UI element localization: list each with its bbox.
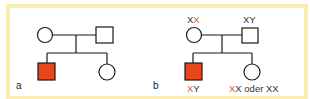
- panel-label-a: a: [16, 80, 22, 91]
- father-symbol-a: [96, 27, 113, 43]
- pedigree-a: [38, 27, 116, 80]
- alt-genotype: XX: [266, 83, 279, 94]
- affected-son-symbol-b: [185, 63, 202, 80]
- genotype-mother: XX: [187, 14, 200, 25]
- panel-label-b: b: [153, 80, 159, 91]
- genotype-daughter: XX oder XX: [229, 83, 279, 94]
- mother-symbol-a: [38, 28, 53, 43]
- mother-symbol-b: [187, 28, 202, 43]
- genotype-father: XY: [243, 14, 256, 25]
- pedigree-b: [185, 28, 260, 81]
- father-symbol-b: [242, 28, 258, 43]
- allele-normal: Y: [193, 83, 199, 94]
- allele-mutant: X: [193, 14, 199, 25]
- connector-text: oder: [242, 83, 266, 94]
- genotype-son: XY: [187, 83, 200, 94]
- daughter-symbol-a: [99, 64, 115, 80]
- affected-son-symbol-a: [38, 63, 55, 80]
- daughter-symbol-b: [244, 64, 260, 80]
